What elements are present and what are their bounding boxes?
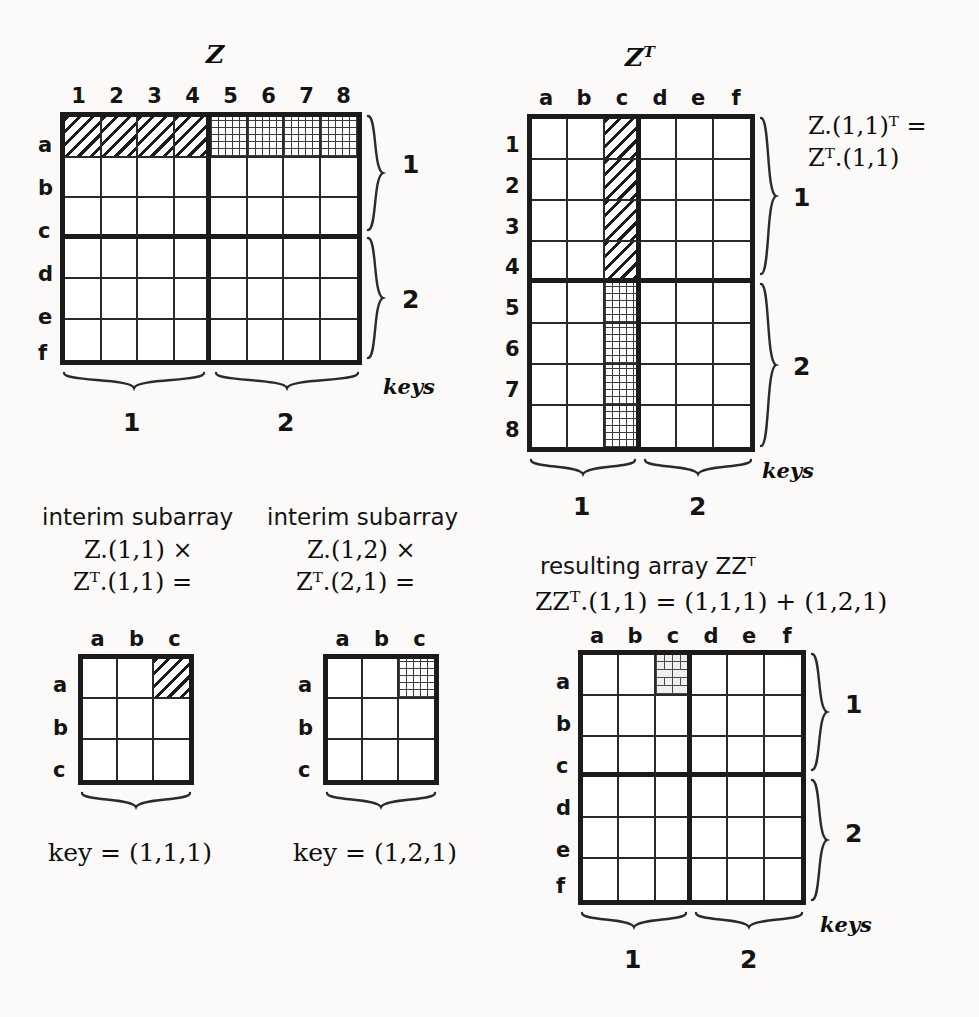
matrix-cell bbox=[118, 659, 153, 699]
matrix-cell bbox=[83, 659, 118, 699]
matrix-cell bbox=[692, 859, 728, 900]
panel-zt-row-header-5: 5 bbox=[505, 298, 520, 319]
matrix-cell bbox=[321, 198, 358, 239]
panel-result-row-header-d: d bbox=[556, 798, 571, 819]
matrix-cell bbox=[321, 117, 358, 158]
matrix-cell bbox=[728, 696, 764, 737]
panel-z-rowgroup-brace-2 bbox=[366, 236, 392, 360]
matrix-cell bbox=[728, 859, 764, 900]
panel-z-col-header-4: 4 bbox=[174, 86, 211, 107]
matrix-cell bbox=[692, 737, 728, 778]
matrix-cell bbox=[532, 160, 568, 201]
panel-interim1-col-header-c: c bbox=[155, 629, 194, 650]
matrix-cell bbox=[175, 158, 212, 199]
matrix-cell bbox=[363, 659, 398, 699]
panel-z-matrix bbox=[60, 112, 362, 365]
panel-interim2-row-header-b: b bbox=[298, 718, 313, 739]
matrix-cell bbox=[583, 696, 619, 737]
panel-result-caption-2: ZZᵀ.(1,1) = (1,1,1) + (1,2,1) bbox=[535, 586, 887, 618]
matrix-cell bbox=[619, 818, 655, 859]
panel-z-row-header-b: b bbox=[38, 178, 53, 199]
panel-interim1-matrix bbox=[78, 654, 194, 785]
matrix-cell bbox=[641, 365, 677, 406]
matrix-cell bbox=[284, 239, 321, 280]
matrix-cell bbox=[677, 242, 713, 283]
matrix-cell bbox=[211, 117, 248, 158]
panel-interim2-row-header-a: a bbox=[298, 675, 312, 696]
panel-result-rowgroup-label-2: 2 bbox=[845, 819, 862, 848]
matrix-cell bbox=[284, 117, 321, 158]
matrix-cell bbox=[118, 699, 153, 739]
panel-result-colgroup-label-1: 1 bbox=[624, 945, 641, 974]
panel-z-row-header-c: c bbox=[38, 221, 50, 242]
panel-result-row-header-f: f bbox=[556, 876, 565, 897]
matrix-cell bbox=[399, 740, 434, 780]
matrix-cell bbox=[138, 158, 175, 199]
matrix-cell bbox=[728, 777, 764, 818]
matrix-cell bbox=[138, 320, 175, 361]
panel-zt-colgroup-label-2: 2 bbox=[689, 492, 706, 521]
matrix-cell bbox=[363, 740, 398, 780]
matrix-cell bbox=[532, 324, 568, 365]
matrix-cell bbox=[677, 160, 713, 201]
panel-interim1-caption-3: Zᵀ.(1,1) = bbox=[73, 566, 192, 598]
matrix-cell bbox=[583, 655, 619, 696]
panel-zt-row-header-1: 1 bbox=[505, 135, 520, 156]
panel-z-row-header-a: a bbox=[38, 135, 52, 156]
matrix-cell bbox=[605, 119, 641, 160]
panel-result-caption-1: resulting array ZZᵀ bbox=[540, 551, 756, 581]
matrix-cell bbox=[656, 737, 692, 778]
panel-result-caption-1-text: resulting array ZZᵀ bbox=[540, 553, 756, 579]
panel-interim2-caption-3: Zᵀ.(2,1) = bbox=[296, 566, 415, 598]
panel-interim1-key-text: key = (1,1,1) bbox=[48, 838, 212, 867]
matrix-cell bbox=[175, 239, 212, 280]
matrix-cell bbox=[154, 699, 189, 739]
panel-result-col-header-a: a bbox=[578, 626, 616, 647]
matrix-cell bbox=[532, 365, 568, 406]
matrix-cell bbox=[677, 201, 713, 242]
matrix-cell bbox=[692, 818, 728, 859]
matrix-cell bbox=[568, 119, 604, 160]
panel-interim2-col-header-a: a bbox=[323, 629, 362, 650]
panel-zt-row-header-4: 4 bbox=[505, 257, 520, 278]
panel-interim2-matrix bbox=[323, 654, 439, 785]
matrix-cell bbox=[211, 158, 248, 199]
matrix-cell bbox=[765, 859, 801, 900]
panel-z-colgroup-brace-2 bbox=[214, 371, 363, 397]
matrix-cell bbox=[568, 406, 604, 447]
matrix-cell bbox=[656, 696, 692, 737]
panel-interim1-row-header-a: a bbox=[53, 675, 67, 696]
matrix-cell bbox=[102, 198, 139, 239]
panel-interim2-caption-2: Z.(1,2) × bbox=[307, 534, 416, 566]
matrix-cell bbox=[692, 696, 728, 737]
matrix-cell bbox=[65, 158, 102, 199]
matrix-cell bbox=[248, 117, 285, 158]
matrix-cell bbox=[677, 119, 713, 160]
matrix-cell bbox=[175, 198, 212, 239]
panel-z-row-header-d: d bbox=[38, 264, 53, 285]
matrix-cell bbox=[248, 279, 285, 320]
matrix-cell bbox=[211, 239, 248, 280]
panel-z-col-header-8: 8 bbox=[325, 86, 362, 107]
matrix-cell bbox=[321, 158, 358, 199]
matrix-cell bbox=[619, 777, 655, 818]
panel-z-col-header-5: 5 bbox=[212, 86, 249, 107]
panel-zt-row-header-6: 6 bbox=[505, 339, 520, 360]
matrix-cell bbox=[605, 324, 641, 365]
matrix-cell bbox=[677, 365, 713, 406]
panel-zt-colgroup-brace-2 bbox=[643, 458, 755, 482]
matrix-cell bbox=[321, 279, 358, 320]
matrix-cell bbox=[211, 320, 248, 361]
matrix-cell bbox=[138, 239, 175, 280]
matrix-cell bbox=[65, 279, 102, 320]
matrix-cell bbox=[568, 242, 604, 283]
panel-zt-colgroup-brace-1 bbox=[529, 458, 639, 482]
matrix-cell bbox=[714, 160, 750, 201]
matrix-cell bbox=[568, 160, 604, 201]
panel-result-rowgroup-label-1: 1 bbox=[845, 690, 862, 719]
panel-z-col-header-1: 1 bbox=[60, 86, 97, 107]
panel-interim1-row-header-b: b bbox=[53, 718, 68, 739]
matrix-cell bbox=[692, 777, 728, 818]
matrix-cell bbox=[532, 242, 568, 283]
matrix-cell bbox=[568, 365, 604, 406]
